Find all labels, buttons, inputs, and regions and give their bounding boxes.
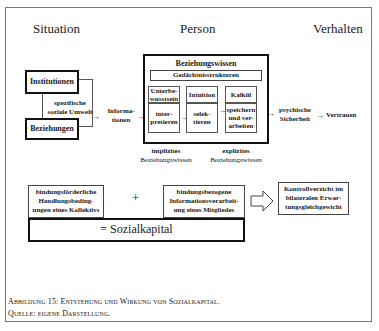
box-kontrollverzicht: Kontrollverzicht imbilateralen Erwar-tun… — [278, 182, 349, 215]
label-explizites: explizitesBeziehungswissen — [204, 147, 268, 165]
caption-source: Quelle: eigene Darstellung. — [8, 309, 110, 318]
cell-selektieren: selek-tieren — [186, 103, 218, 133]
cell-speichern: speichernund ver-arbeiten — [225, 103, 257, 133]
connector-line — [42, 94, 43, 118]
header-situation: Situation — [33, 21, 80, 37]
header-person: Person — [180, 21, 215, 37]
plus-sign: + — [132, 190, 139, 206]
label-psychische-sicherheit: psychischeSicherheit — [274, 106, 316, 124]
connector-line — [79, 79, 93, 80]
label-spezifische-umwelt: spezifischesoziale Umwelt — [45, 99, 95, 117]
caption-title: Abbildung 15: Entstehung und Wirkung von… — [8, 297, 220, 306]
label-vertrauen: Vertrauen — [326, 111, 356, 120]
box-informationsverarbeitung: bindungsbezogeneInformationsverarbeit-un… — [163, 185, 245, 218]
arrow-right-icon: → — [316, 112, 324, 120]
label-informationen: Informa-tionen — [104, 107, 138, 125]
box-handlungsbedingungen: bindungsförderlicheHandlungsbeding-ungen… — [28, 185, 104, 218]
connector-line — [79, 126, 93, 127]
box-sozialkapital: = Sozialkapital — [28, 218, 245, 242]
header-verhalten: Verhalten — [313, 21, 363, 37]
cell-interpretieren: inter-pretieren — [148, 103, 180, 133]
label-implizites: implizitesBeziehungswissen — [134, 147, 198, 165]
hollow-arrow-icon — [250, 190, 274, 212]
arrow-right-icon: → — [92, 113, 100, 121]
box-beziehungen: Beziehungen — [25, 118, 79, 140]
beziehungswissen-title: Beziehungswissen — [143, 59, 269, 69]
cell-unterbewusstsein: Unterbe-wusstsein — [148, 86, 180, 103]
cell-kalkuel: Kalkül — [225, 86, 257, 103]
box-gedaechtnisstrukturen: Gedächtnisstrukturen — [150, 70, 262, 81]
cell-intuition: Intuition — [186, 86, 218, 103]
box-institutionen: Institutionen — [25, 70, 79, 94]
